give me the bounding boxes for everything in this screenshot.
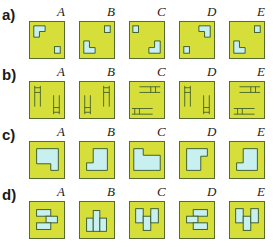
option-letter-c-B: B xyxy=(107,124,115,140)
option-letter-b-A: A xyxy=(57,64,65,80)
option-letter-b-C: C xyxy=(157,64,166,80)
option-box-c-D[interactable] xyxy=(179,141,215,179)
option-box-b-A[interactable] xyxy=(29,81,65,119)
line-figure-icon xyxy=(180,82,214,118)
option-letter-c-D: D xyxy=(207,124,216,140)
option-letter-a-C: C xyxy=(157,4,166,20)
option-letter-d-E: E xyxy=(257,184,265,200)
row-label-d: d) xyxy=(2,186,16,203)
shape-icon xyxy=(180,142,214,178)
option-letter-a-B: B xyxy=(107,4,115,20)
option-letter-b-E: E xyxy=(257,64,265,80)
option-box-a-E[interactable] xyxy=(229,21,265,59)
option-box-d-E[interactable] xyxy=(229,201,265,239)
block-figure-icon xyxy=(180,202,214,238)
row-label-c: c) xyxy=(2,126,15,143)
option-box-d-A[interactable] xyxy=(29,201,65,239)
shape-icon xyxy=(30,142,64,178)
option-box-a-C[interactable] xyxy=(129,21,165,59)
option-letter-c-A: A xyxy=(57,124,65,140)
option-box-d-D[interactable] xyxy=(179,201,215,239)
option-letter-d-C: C xyxy=(157,184,166,200)
option-letter-a-D: D xyxy=(207,4,216,20)
option-box-b-D[interactable] xyxy=(179,81,215,119)
option-box-a-B[interactable] xyxy=(79,21,115,59)
option-letter-a-E: E xyxy=(257,4,265,20)
shape-icon xyxy=(130,142,164,178)
block-figure-icon xyxy=(230,202,264,238)
line-figure-icon xyxy=(80,82,114,118)
option-letter-b-D: D xyxy=(207,64,216,80)
shape-icon xyxy=(230,22,264,58)
option-letter-a-A: A xyxy=(57,4,65,20)
line-figure-icon xyxy=(130,82,164,118)
option-box-d-B[interactable] xyxy=(79,201,115,239)
option-letter-d-B: B xyxy=(107,184,115,200)
line-figure-icon xyxy=(230,82,264,118)
block-figure-icon xyxy=(80,202,114,238)
option-box-d-C[interactable] xyxy=(129,201,165,239)
option-letter-b-B: B xyxy=(107,64,115,80)
option-box-b-E[interactable] xyxy=(229,81,265,119)
option-letter-d-D: D xyxy=(207,184,216,200)
shape-icon xyxy=(130,22,164,58)
option-letter-c-C: C xyxy=(157,124,166,140)
shape-icon xyxy=(180,22,214,58)
row-label-a: a) xyxy=(2,6,15,23)
option-box-a-D[interactable] xyxy=(179,21,215,59)
option-letter-d-A: A xyxy=(57,184,65,200)
row-label-b: b) xyxy=(2,66,16,83)
shape-icon xyxy=(230,142,264,178)
shape-icon xyxy=(80,142,114,178)
option-box-a-A[interactable] xyxy=(29,21,65,59)
option-box-c-B[interactable] xyxy=(79,141,115,179)
option-box-b-B[interactable] xyxy=(79,81,115,119)
line-figure-icon xyxy=(30,82,64,118)
shape-icon xyxy=(80,22,114,58)
block-figure-icon xyxy=(30,202,64,238)
block-figure-icon xyxy=(130,202,164,238)
option-box-c-C[interactable] xyxy=(129,141,165,179)
option-letter-c-E: E xyxy=(257,124,265,140)
option-box-c-A[interactable] xyxy=(29,141,65,179)
shape-icon xyxy=(30,22,64,58)
option-box-c-E[interactable] xyxy=(229,141,265,179)
option-box-b-C[interactable] xyxy=(129,81,165,119)
